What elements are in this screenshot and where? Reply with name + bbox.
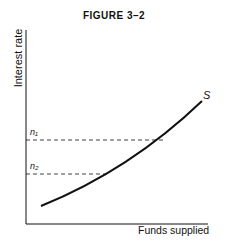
supply-curve bbox=[41, 101, 202, 206]
x-axis-label: Funds supplied bbox=[138, 224, 209, 236]
n2-label: n₂ bbox=[30, 161, 38, 171]
n1-label: n₁ bbox=[30, 127, 38, 137]
curve-label-s: S bbox=[203, 89, 210, 101]
chart-plot bbox=[0, 0, 228, 245]
